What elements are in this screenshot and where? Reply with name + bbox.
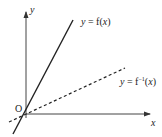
function-inverse-diagram: y x O y = f(x) y = f−1(x)	[0, 0, 162, 137]
x-axis-label: x	[151, 118, 155, 128]
curve-f-label-eq: =	[85, 16, 96, 27]
curve-finv-label-eq: =	[124, 76, 135, 87]
y-axis-label: y	[30, 5, 34, 15]
curve-finv-label-close: )	[153, 76, 156, 87]
curve-f-label-close: )	[107, 16, 110, 27]
curve-f	[13, 20, 73, 134]
curve-f-label: y = f(x)	[81, 17, 111, 27]
curve-f-inverse-label: y = f−1(x)	[120, 76, 156, 87]
curve-f-label-fn: f(	[96, 16, 103, 27]
origin-label: O	[15, 104, 22, 114]
